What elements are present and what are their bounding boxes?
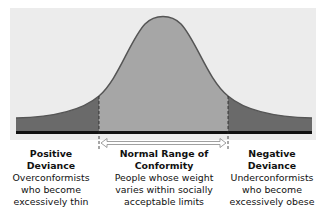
negative-title-1: Negative	[223, 148, 321, 160]
positive-desc-3: excessively thin	[2, 196, 100, 208]
normal-range-label: Normal Range of Conformity People whose …	[98, 148, 230, 208]
negative-title-2: Deviance	[223, 160, 321, 172]
positive-desc-2: who become	[2, 184, 100, 196]
positive-title-2: Deviance	[2, 160, 100, 172]
negative-desc-3: excessively obese	[223, 196, 321, 208]
normal-title-2: Conformity	[98, 160, 230, 172]
normal-title-1: Normal Range of	[98, 148, 230, 160]
negative-desc-2: who become	[223, 184, 321, 196]
negative-desc-1: Underconformists	[223, 172, 321, 184]
positive-desc-1: Overconformists	[2, 172, 100, 184]
baseline	[16, 131, 312, 134]
double-headed-arrow-icon	[101, 139, 226, 148]
negative-deviance-label: Negative Deviance Underconformists who b…	[223, 148, 321, 208]
positive-title-1: Positive	[2, 148, 100, 160]
positive-deviance-label: Positive Deviance Overconformists who be…	[2, 148, 100, 208]
normal-desc-2: varies within socially	[98, 184, 230, 196]
normal-desc-3: acceptable limits	[98, 196, 230, 208]
normal-desc-1: People whose weight	[98, 172, 230, 184]
